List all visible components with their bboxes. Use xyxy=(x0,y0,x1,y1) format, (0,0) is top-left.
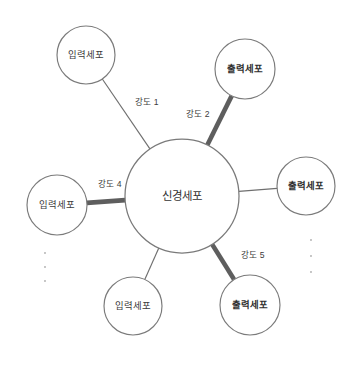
node-input-left[interactable]: 입력세포 xyxy=(27,175,87,235)
node-output-top-right[interactable]: 출력세포 xyxy=(215,39,275,99)
ellipsis-dot xyxy=(310,239,312,241)
nodes-layer: 입력세포출력세포출력세포출력세포입력세포입력세포신경세포 xyxy=(27,26,335,335)
edge-output-bottom-to-hub[interactable] xyxy=(212,244,234,279)
edge-label-edge-1: 강도 1 xyxy=(135,97,158,107)
edge-input-left-to-hub[interactable] xyxy=(87,200,125,203)
ellipsis-dot xyxy=(310,255,312,257)
node-input-top-left[interactable]: 입력세포 xyxy=(57,26,115,84)
ellipsis-left xyxy=(44,252,46,282)
ellipsis-dot xyxy=(44,280,46,282)
node-label-output-top-right: 출력세포 xyxy=(227,63,263,74)
node-label-input-top-left: 입력세포 xyxy=(68,49,104,60)
node-label-input-bottom-left: 입력세포 xyxy=(115,300,151,311)
ellipsis-dot xyxy=(44,252,46,254)
node-output-bottom[interactable]: 출력세포 xyxy=(220,275,280,335)
edge-label-edge-4: 강도 4 xyxy=(98,179,121,189)
edge-output-top-right-to-hub[interactable] xyxy=(207,96,231,145)
diagram-canvas: 입력세포출력세포출력세포출력세포입력세포입력세포신경세포 강도 1강도 2강도 … xyxy=(0,0,361,365)
node-input-bottom-left[interactable]: 입력세포 xyxy=(104,277,162,335)
node-label-input-left: 입력세포 xyxy=(39,199,75,210)
ellipsis-right xyxy=(310,239,312,273)
node-label-hub: 신경세포 xyxy=(162,189,202,202)
node-output-right[interactable]: 출력세포 xyxy=(277,157,335,215)
node-label-output-bottom: 출력세포 xyxy=(232,299,268,310)
neuron-network-diagram: 입력세포출력세포출력세포출력세포입력세포입력세포신경세포 강도 1강도 2강도 … xyxy=(0,0,361,365)
edge-label-edge-2: 강도 2 xyxy=(186,109,209,119)
edge-input-bottom-left-to-hub[interactable] xyxy=(145,248,159,279)
ellipsis-dot xyxy=(44,266,46,268)
edge-input-top-left-to-hub[interactable] xyxy=(102,79,150,149)
node-hub-neuron[interactable]: 신경세포 xyxy=(125,139,239,253)
edge-label-edge-5: 강도 5 xyxy=(241,250,264,260)
node-label-output-right: 출력세포 xyxy=(288,180,324,191)
ellipsis-dot xyxy=(310,271,312,273)
edge-output-right-to-hub[interactable] xyxy=(239,188,277,191)
